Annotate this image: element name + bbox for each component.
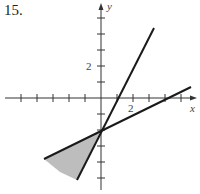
x-tick-label: 2 (128, 102, 134, 114)
steep-line (77, 28, 154, 180)
y-axis-label: y (106, 0, 112, 12)
graph: 2 2 x y (0, 0, 200, 194)
x-axis-label: x (189, 102, 195, 114)
x-axis-arrow-icon (190, 96, 197, 101)
y-axis-arrow-icon (99, 3, 104, 10)
y-tick-label: 2 (86, 60, 92, 72)
